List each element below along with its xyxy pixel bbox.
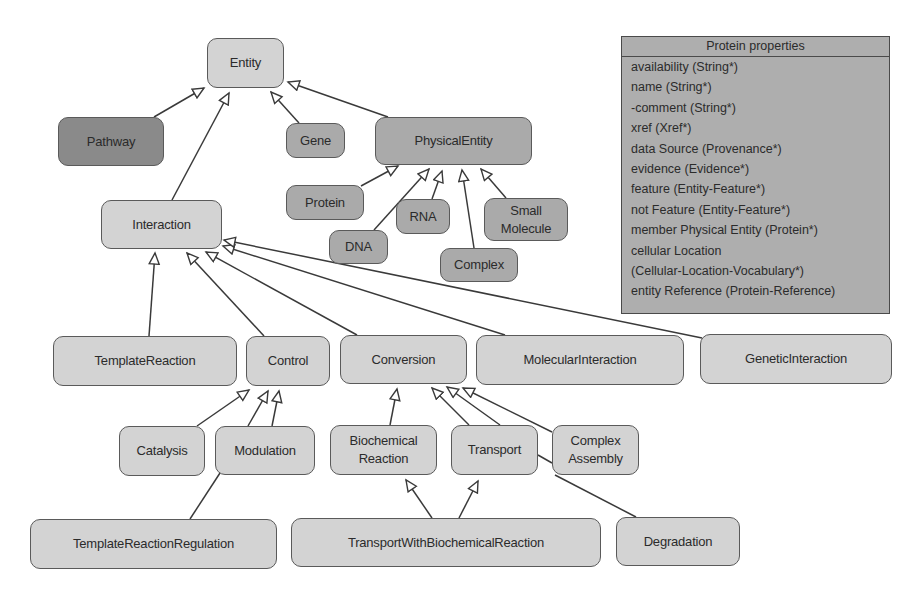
node-label: Entity bbox=[230, 54, 261, 72]
node-label: Gene bbox=[300, 132, 331, 150]
node-dna[interactable]: DNA bbox=[329, 230, 388, 264]
edge-modulation-control bbox=[248, 391, 268, 426]
node-label: Interaction bbox=[132, 216, 191, 234]
node-conversion[interactable]: Conversion bbox=[340, 335, 467, 384]
node-transport-with-biochemical-reaction[interactable]: TransportWithBiochemicalReaction bbox=[291, 518, 601, 567]
node-catalysis[interactable]: Catalysis bbox=[119, 426, 205, 476]
node-interaction[interactable]: Interaction bbox=[101, 200, 222, 249]
node-transport[interactable]: Transport bbox=[451, 425, 538, 475]
property-row: data Source (Provenance*) bbox=[622, 139, 889, 159]
edge-catalysis-control bbox=[197, 390, 249, 426]
node-label: TemplateReactionRegulation bbox=[73, 535, 234, 553]
edge-templatereaction-interaction bbox=[149, 253, 155, 336]
node-label: Protein bbox=[305, 194, 345, 212]
node-physical-entity[interactable]: PhysicalEntity bbox=[375, 117, 532, 165]
node-label: Conversion bbox=[372, 351, 436, 369]
node-label: Small Molecule bbox=[499, 202, 553, 238]
node-label: Biochemical Reaction bbox=[343, 432, 424, 468]
node-label: TemplateReaction bbox=[95, 352, 196, 370]
edge-pathway-entity bbox=[154, 88, 204, 117]
node-label: TransportWithBiochemicalReaction bbox=[348, 534, 544, 552]
node-template-reaction-regulation[interactable]: TemplateReactionRegulation bbox=[30, 519, 277, 569]
edge-protein-physicalentity bbox=[361, 166, 398, 186]
node-label: Complex Assembly bbox=[563, 432, 628, 468]
property-row: feature (Entity-Feature*) bbox=[622, 179, 889, 199]
protein-properties-panel: Protein properties availability (String*… bbox=[621, 36, 890, 314]
node-protein[interactable]: Protein bbox=[286, 185, 364, 220]
node-label: Catalysis bbox=[137, 442, 188, 460]
edge-control-interaction bbox=[187, 253, 264, 336]
property-row: entity Reference (Protein-Reference) bbox=[622, 281, 889, 301]
node-label: Control bbox=[268, 352, 309, 370]
edge-templatereactionregulation-control bbox=[190, 473, 220, 519]
edge-degradation-conversion-mid bbox=[538, 455, 552, 463]
node-degradation[interactable]: Degradation bbox=[616, 517, 740, 566]
node-label: MolecularInteraction bbox=[523, 351, 636, 369]
edge-smallmolecule-physicalentity bbox=[481, 169, 506, 198]
node-complex[interactable]: Complex bbox=[440, 248, 518, 282]
node-template-reaction[interactable]: TemplateReaction bbox=[53, 336, 237, 386]
property-row: cellular Location bbox=[622, 241, 889, 261]
node-label: Degradation bbox=[644, 533, 713, 551]
node-molecular-interaction[interactable]: MolecularInteraction bbox=[476, 335, 684, 385]
edge-degradation-conversion bbox=[555, 475, 636, 517]
node-small-molecule[interactable]: Small Molecule bbox=[484, 198, 568, 241]
node-label: PhysicalEntity bbox=[414, 132, 492, 150]
edge-transport-conversion bbox=[432, 388, 469, 425]
node-gene[interactable]: Gene bbox=[286, 123, 345, 158]
node-entity[interactable]: Entity bbox=[207, 38, 284, 88]
node-complex-assembly[interactable]: Complex Assembly bbox=[552, 425, 639, 475]
edge-twbr-transport bbox=[459, 481, 478, 518]
node-label: DNA bbox=[345, 238, 372, 256]
node-modulation[interactable]: Modulation bbox=[215, 426, 315, 475]
edge-interaction-entity bbox=[172, 93, 229, 200]
node-biochemical-reaction[interactable]: Biochemical Reaction bbox=[330, 425, 437, 475]
protein-properties-title: Protein properties bbox=[622, 37, 889, 57]
node-label: RNA bbox=[410, 208, 437, 226]
edge-biochemicalreaction-conversion bbox=[390, 389, 397, 425]
property-row: xref (Xref*) bbox=[622, 118, 889, 138]
node-label: GeneticInteraction bbox=[745, 350, 847, 368]
property-row: member Physical Entity (Protein*) bbox=[622, 220, 889, 240]
node-label: Pathway bbox=[87, 133, 135, 151]
property-row: availability (String*) bbox=[622, 57, 889, 77]
edge-modulation2-control bbox=[272, 391, 279, 426]
node-pathway[interactable]: Pathway bbox=[58, 117, 164, 166]
node-control[interactable]: Control bbox=[246, 336, 330, 386]
edge-physicalentity-entity bbox=[288, 82, 388, 117]
property-row: not Feature (Entity-Feature*) bbox=[622, 200, 889, 220]
node-label: Complex bbox=[454, 256, 504, 274]
property-row: (Cellular-Location-Vocabulary*) bbox=[622, 261, 889, 281]
property-row: -comment (String*) bbox=[622, 98, 889, 118]
node-genetic-interaction[interactable]: GeneticInteraction bbox=[700, 334, 892, 384]
edge-rna-physicalentity bbox=[432, 171, 442, 199]
node-label: Modulation bbox=[234, 442, 296, 460]
property-row: name (String*) bbox=[622, 77, 889, 97]
edge-gene-entity bbox=[271, 92, 299, 123]
property-row: evidence (Evidence*) bbox=[622, 159, 889, 179]
edge-complex-physicalentity bbox=[462, 170, 474, 248]
node-label: Transport bbox=[468, 441, 521, 459]
edge-twbr-biochemicalreaction bbox=[406, 480, 432, 518]
node-rna[interactable]: RNA bbox=[396, 199, 450, 234]
